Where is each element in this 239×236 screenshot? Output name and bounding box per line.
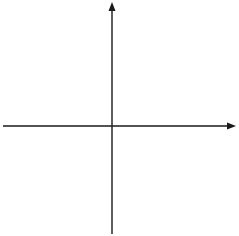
coordinate-plane [0,0,239,236]
y-axis [109,2,116,234]
y-axis-arrow-icon [109,2,116,11]
x-axis-arrow-icon [227,123,236,130]
x-axis [3,123,236,130]
